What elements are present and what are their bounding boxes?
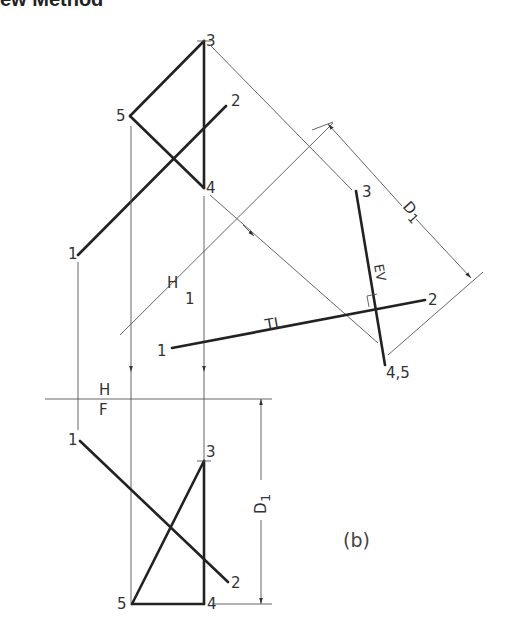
auxiliary-view: 3 2 4,5 1 TL EV D 1 xyxy=(157,183,438,382)
label-3-front: 3 xyxy=(206,443,216,461)
fold-label-h-upper: H xyxy=(167,274,178,292)
top-view: 3 5 2 4 1 xyxy=(68,32,241,263)
edge-3-5-top xyxy=(130,41,204,116)
label-1-front: 1 xyxy=(68,431,78,449)
fold-label-f: F xyxy=(99,401,108,419)
edge-view-label: EV xyxy=(371,263,389,283)
descriptive-geometry-drawing: 3 5 2 4 1 H 1 3 2 4,5 1 TL EV xyxy=(0,0,505,631)
label-2-front: 2 xyxy=(231,574,241,592)
figure-caption: (b) xyxy=(343,529,370,551)
label-4-top: 4 xyxy=(206,179,216,197)
label-3-top: 3 xyxy=(206,32,216,50)
label-3-aux: 3 xyxy=(362,183,372,201)
label-1-aux: 1 xyxy=(157,342,167,360)
front-view: 1 3 2 5 4 D 1 xyxy=(68,399,273,613)
label-2-top: 2 xyxy=(231,92,241,110)
fold-line-h1 xyxy=(120,123,333,335)
true-length-label: TL xyxy=(263,313,285,334)
line-1-2-true-length xyxy=(172,300,425,348)
label-5-front: 5 xyxy=(117,595,127,613)
front-distance-label: D xyxy=(252,502,270,514)
front-distance-subscript: 1 xyxy=(258,494,273,502)
fold-label-h: H xyxy=(99,381,110,399)
aux-dimension-extension xyxy=(388,272,483,355)
fold-label-1: 1 xyxy=(185,290,195,308)
label-2-aux: 2 xyxy=(428,291,438,309)
edge-5-3-front xyxy=(132,461,204,604)
label-45-aux: 4,5 xyxy=(386,364,410,382)
edge-5-4-top xyxy=(130,116,204,188)
label-5-top: 5 xyxy=(116,107,126,125)
label-1-top: 1 xyxy=(68,245,78,263)
